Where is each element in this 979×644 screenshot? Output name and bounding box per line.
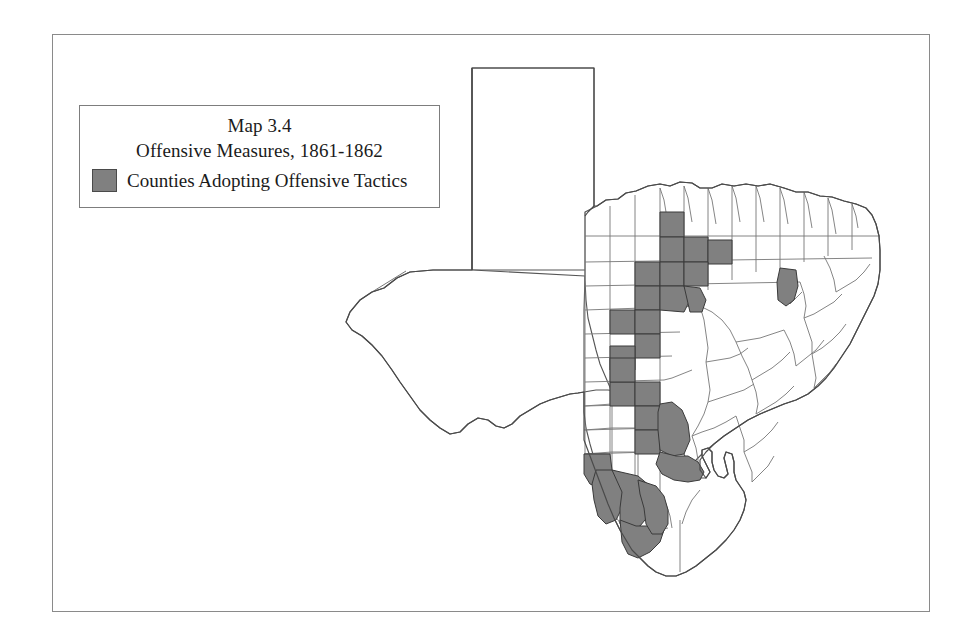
legend-swatch-shaded bbox=[92, 169, 117, 192]
legend-entry-label: Counties Adopting Offensive Tactics bbox=[127, 170, 407, 192]
figure-page: Map 3.4 Offensive Measures, 1861-1862 Co… bbox=[0, 0, 979, 644]
map-legend: Map 3.4 Offensive Measures, 1861-1862 Co… bbox=[79, 105, 440, 208]
legend-entry: Counties Adopting Offensive Tactics bbox=[80, 169, 439, 192]
legend-title-line-1: Map 3.4 bbox=[80, 113, 439, 138]
legend-title-line-2: Offensive Measures, 1861-1862 bbox=[80, 138, 439, 163]
